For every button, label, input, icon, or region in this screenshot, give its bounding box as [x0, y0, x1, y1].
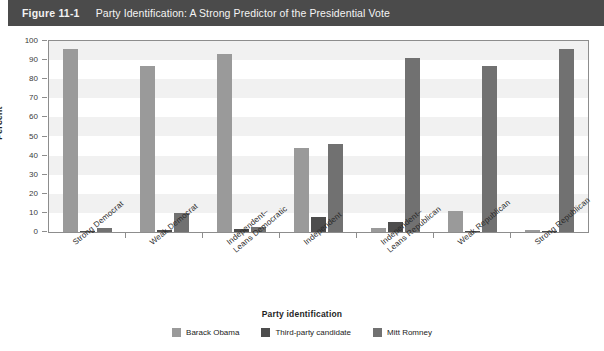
y-axis: 0102030405060708090100 — [0, 40, 44, 233]
y-tick-mark — [42, 193, 47, 194]
chart-legend: Barack ObamaThird-party candidateMitt Ro… — [0, 328, 604, 337]
y-tick-mark — [42, 116, 47, 117]
y-tick-mark — [42, 136, 47, 137]
legend-item: Mitt Romney — [373, 328, 432, 337]
y-tick-label: 0 — [34, 227, 38, 236]
y-tick-label: 60 — [29, 112, 38, 121]
y-tick-label: 20 — [29, 188, 38, 197]
y-tick-label: 50 — [29, 131, 38, 140]
legend-swatch — [373, 328, 382, 337]
figure-number: Figure 11-1 — [22, 7, 80, 19]
figure-title: Party Identification: A Strong Predictor… — [96, 7, 390, 19]
x-tick-mark — [356, 233, 357, 238]
legend-item: Barack Obama — [172, 328, 239, 337]
chart-container: Percent 0102030405060708090100 Strong De… — [0, 26, 604, 351]
legend-swatch — [172, 328, 181, 337]
legend-swatch — [261, 328, 270, 337]
y-tick-label: 100 — [25, 36, 38, 45]
legend-label: Third-party candidate — [275, 328, 351, 337]
x-tick-mark — [279, 233, 280, 238]
y-tick-label: 90 — [29, 55, 38, 64]
bar — [525, 230, 540, 232]
y-tick-mark — [42, 231, 47, 232]
x-tick-mark — [510, 233, 511, 238]
y-tick-label: 80 — [29, 74, 38, 83]
bar — [217, 54, 232, 232]
legend-label: Barack Obama — [186, 328, 239, 337]
y-tick-mark — [42, 212, 47, 213]
y-tick-label: 30 — [29, 169, 38, 178]
bar — [294, 148, 309, 232]
x-tick-mark — [433, 233, 434, 238]
y-tick-mark — [42, 97, 47, 98]
y-tick-mark — [42, 174, 47, 175]
x-tick-mark — [202, 233, 203, 238]
y-tick-label: 70 — [29, 93, 38, 102]
y-tick-label: 40 — [29, 150, 38, 159]
y-tick-mark — [42, 40, 47, 41]
legend-item: Third-party candidate — [261, 328, 351, 337]
legend-label: Mitt Romney — [387, 328, 432, 337]
figure-title-band: Figure 11-1 Party Identification: A Stro… — [8, 0, 604, 26]
x-tick-mark — [125, 233, 126, 238]
y-tick-mark — [42, 59, 47, 60]
x-axis-title: Party identification — [0, 309, 604, 319]
bar — [140, 66, 155, 232]
y-tick-mark — [42, 155, 47, 156]
bar — [371, 228, 386, 232]
bar — [448, 211, 463, 232]
bar — [63, 49, 78, 232]
y-tick-label: 10 — [29, 207, 38, 216]
y-tick-mark — [42, 78, 47, 79]
bar-group — [280, 41, 357, 232]
bar — [559, 49, 574, 232]
